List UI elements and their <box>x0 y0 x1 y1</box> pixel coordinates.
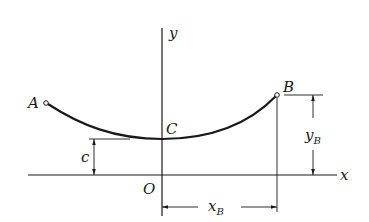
catenary-diagram: A B C O y x c yB xB <box>0 0 369 222</box>
label-y-axis: y <box>168 24 178 42</box>
label-o: O <box>143 180 155 198</box>
label-c-dimension: c <box>81 148 90 166</box>
label-x-axis: x <box>340 166 349 184</box>
point-a-marker <box>44 101 49 106</box>
label-a: A <box>26 94 39 112</box>
label-xb: xB <box>208 197 224 217</box>
label-c: C <box>166 120 178 138</box>
point-b-marker <box>275 93 280 98</box>
label-b: B <box>282 78 294 96</box>
label-yb: yB <box>304 126 321 146</box>
